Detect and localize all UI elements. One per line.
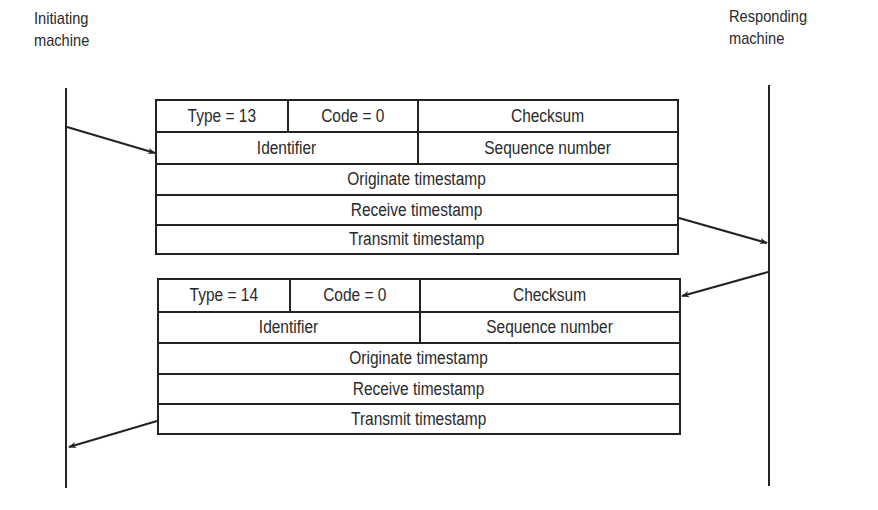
arrow-reply-deliver-icon (69, 421, 157, 447)
sequence-lines-overlay (0, 0, 878, 510)
arrow-request-deliver-icon (679, 218, 767, 243)
arrow-reply-send-icon (682, 272, 768, 296)
arrow-request-send-icon (67, 127, 155, 153)
